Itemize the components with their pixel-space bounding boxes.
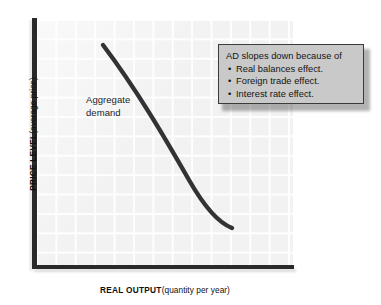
callout-item-0-label: Real balances effect. xyxy=(236,64,323,74)
bullet-icon: • xyxy=(228,88,236,101)
y-axis-title: PRICE LEVEL(average price) xyxy=(28,54,38,214)
x-axis-title: REAL OUTPUT(quantity per year) xyxy=(37,285,293,295)
curve-label-aggregate-demand: Aggregate demand xyxy=(86,94,160,119)
callout-item-0: •Real balances effect. xyxy=(226,63,356,76)
x-axis-title-strong: REAL OUTPUT xyxy=(100,285,162,295)
callout-item-1: •Foreign trade effect. xyxy=(226,75,356,88)
callout-item-2: •Interest rate effect. xyxy=(226,88,356,101)
callout-item-2-label: Interest rate effect. xyxy=(236,89,314,99)
x-axis-title-light: (quantity per year) xyxy=(162,285,230,295)
callout-heading: AD slopes down because of xyxy=(226,50,356,63)
callout-item-1-label: Foreign trade effect. xyxy=(236,76,319,86)
x-axis-shadow xyxy=(34,269,296,272)
x-axis-line xyxy=(32,265,294,270)
bullet-icon: • xyxy=(228,63,236,76)
aggregate-demand-chart: Aggregate demand PRICE LEVEL(average pri… xyxy=(0,0,381,305)
ad-curve-path xyxy=(103,45,232,228)
bullet-icon: • xyxy=(228,75,236,88)
ad-slope-callout: AD slopes down because of •Real balances… xyxy=(218,44,364,104)
y-axis-title-strong: PRICE LEVEL xyxy=(28,134,38,191)
curve-label-line1: Aggregate xyxy=(86,94,160,107)
y-axis-title-light: (average price) xyxy=(28,77,38,134)
curve-label-line2: demand xyxy=(86,107,160,120)
